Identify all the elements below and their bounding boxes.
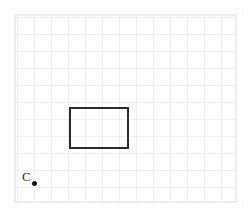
- grid-svg: [0, 0, 252, 215]
- figure-canvas: C: [0, 0, 252, 215]
- point-c-label: C: [22, 170, 31, 183]
- point-c-dot: [32, 181, 37, 186]
